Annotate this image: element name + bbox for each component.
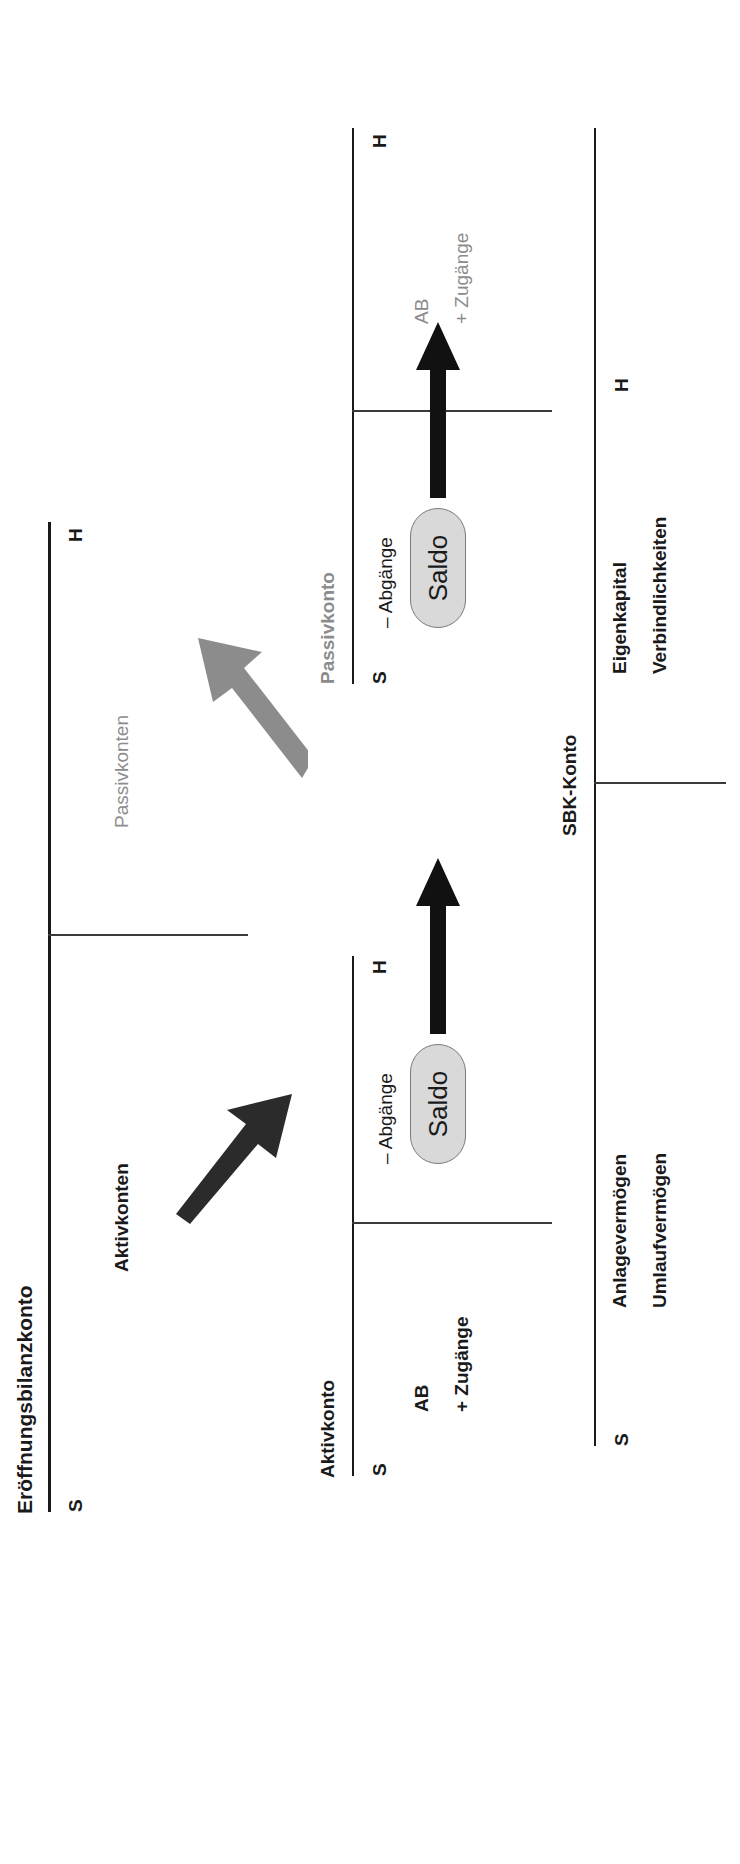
passivkonto-debit-marker: S	[370, 671, 389, 684]
sbk-debit-entry-0: Anlagevermögen	[610, 1154, 629, 1308]
sbk-center-divider	[594, 782, 726, 784]
diagram-canvas: Eröffnungsbilanzkonto S H Aktivkonten Pa…	[0, 0, 740, 1864]
passivkonto-credit-entry-1: + Zugänge	[452, 233, 471, 324]
aktivkonto-credit-marker: H	[370, 960, 389, 974]
aktivkonto-top-rule	[352, 956, 354, 1476]
ebk-center-divider	[48, 934, 248, 936]
diagram-root: Eröffnungsbilanzkonto S H Aktivkonten Pa…	[0, 0, 740, 1864]
sbk-debit-marker: S	[612, 1433, 631, 1446]
sbk-credit-entry-1: Verbindlichkeiten	[650, 517, 669, 674]
sbk-top-rule	[594, 128, 596, 1446]
arrow-ebk-to-passivkonto	[168, 634, 308, 784]
sbk-title: SBK-Konto	[560, 735, 579, 836]
passivkonto-credit-marker: H	[370, 134, 389, 148]
aktivkonto-debit-entry-1: + Zugänge	[452, 1316, 471, 1412]
ebk-debit-marker: S	[66, 1499, 85, 1512]
aktivkonto-debit-marker: S	[370, 1463, 389, 1476]
sbk-credit-marker: H	[612, 378, 631, 392]
aktivkonto-center-divider	[352, 1222, 552, 1224]
aktivkonto-saldo-pill: Saldo	[410, 1044, 466, 1164]
ebk-credit-marker: H	[66, 528, 85, 542]
ebk-credit-entry: Passivkonten	[112, 715, 131, 828]
aktivkonto-title: Aktivkonto	[318, 1380, 337, 1478]
ebk-title: Eröffnungsbilanzkonto	[14, 1285, 35, 1514]
arrow-passivkonto-saldo-to-sbk	[414, 322, 462, 498]
sbk-credit-entry-0: Eigenkapital	[610, 562, 629, 674]
passivkonto-saldo-pill: Saldo	[410, 508, 466, 628]
passivkonto-top-rule	[352, 128, 354, 684]
ebk-debit-entry: Aktivkonten	[112, 1163, 131, 1272]
arrow-aktivkonto-saldo-to-sbk	[414, 858, 462, 1034]
passivkonto-credit-entry-0: AB	[412, 299, 431, 324]
passivkonto-debit-entry-0: – Abgänge	[376, 537, 395, 628]
sbk-debit-entry-1: Umlaufvermögen	[650, 1153, 669, 1308]
ebk-top-rule	[48, 522, 51, 1512]
passivkonto-title: Passivkonto	[318, 572, 337, 684]
aktivkonto-credit-entry-0: – Abgänge	[376, 1073, 395, 1164]
arrow-ebk-to-aktivkonto	[170, 1084, 300, 1224]
aktivkonto-debit-entry-0: AB	[412, 1385, 431, 1412]
